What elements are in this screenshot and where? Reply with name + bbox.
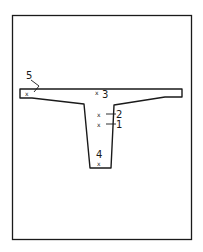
point-3-label: 3 — [102, 89, 108, 100]
point-1-label: 1 — [116, 119, 122, 130]
point-5-label: 5 — [26, 70, 32, 81]
point-1-marker: x 1 — [97, 119, 122, 130]
point-4-label: 4 — [96, 149, 102, 160]
point-3-marker: x 3 — [95, 89, 108, 100]
point-5-marker: 5 x — [25, 70, 39, 97]
point-3-x-mark: x — [95, 89, 99, 96]
point-4-marker: 4 x — [96, 149, 102, 167]
point-1-x-mark: x — [97, 121, 101, 128]
frame-border — [13, 16, 192, 240]
point-2-x-mark: x — [97, 111, 101, 118]
point-5-x-mark: x — [25, 90, 29, 97]
point-4-x-mark: x — [97, 160, 101, 167]
t-beam-diagram: 5 x x 3 x 2 x 1 4 x — [0, 0, 203, 252]
